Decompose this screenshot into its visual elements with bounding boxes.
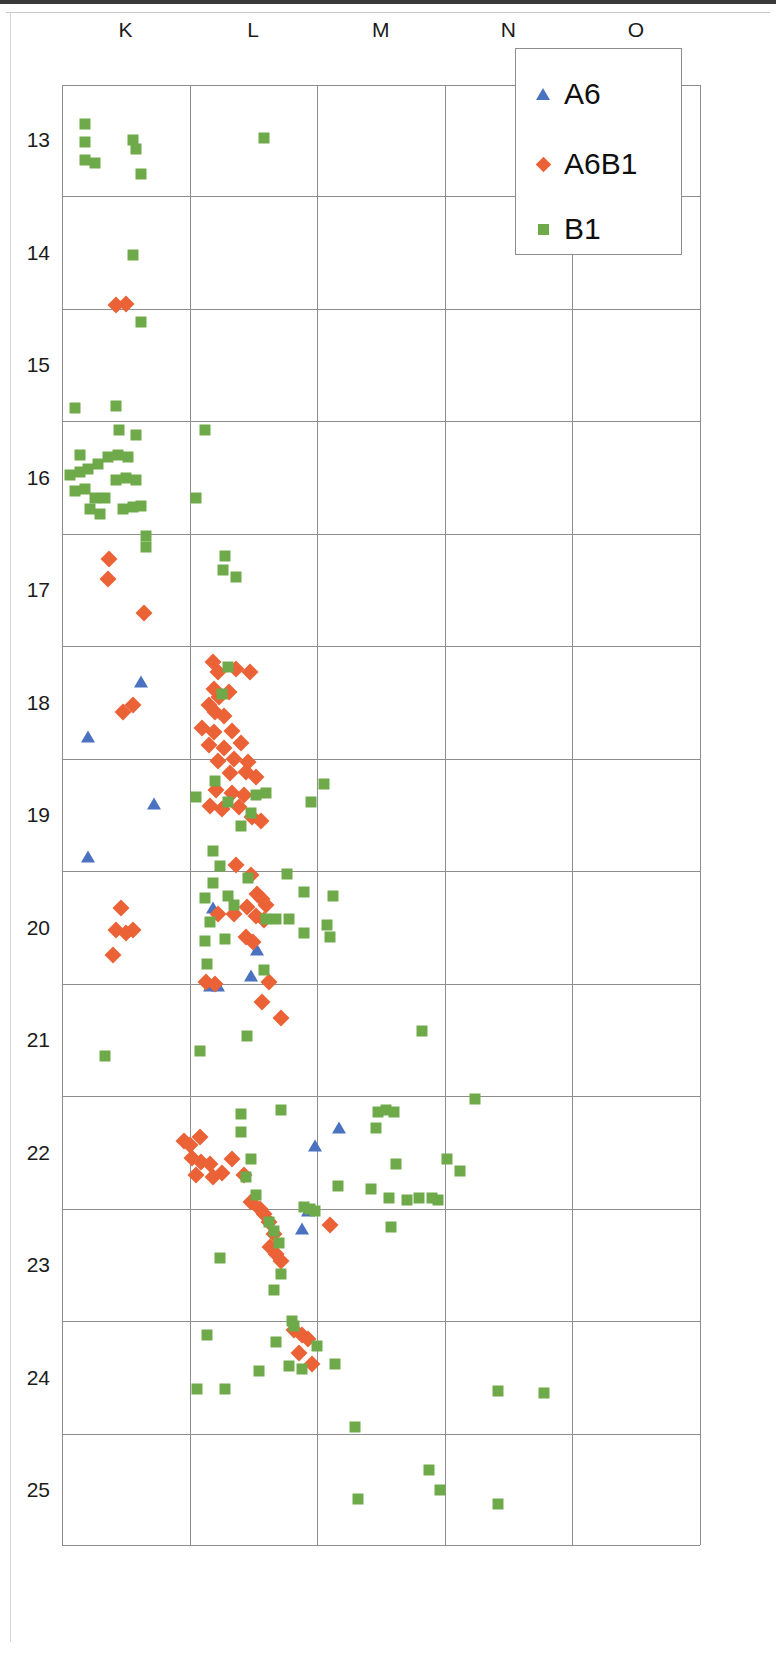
plot-border-bottom [62,1545,700,1546]
data-point-a6 [81,850,95,862]
data-point-b1 [110,400,121,411]
data-point-a6 [134,676,148,688]
data-point-b1 [199,893,210,904]
data-point-b1 [207,846,218,857]
data-point-b1 [222,796,233,807]
data-point-b1 [69,402,80,413]
y-tick-label-19: 19 [10,803,50,827]
data-point-b1 [235,1127,246,1138]
y-tick-label-14: 14 [10,241,50,265]
legend-label-a6: A6 [564,79,601,109]
gridline-horizontal-10 [62,1321,700,1322]
legend-marker-square-icon [528,224,558,235]
data-point-b1 [245,807,256,818]
data-point-b1 [194,1046,205,1057]
data-point-b1 [215,1253,226,1264]
data-point-a6b1 [99,570,116,587]
data-point-b1 [416,1026,427,1037]
data-point-b1 [493,1386,504,1397]
plot-border-right [700,85,701,1545]
data-point-b1 [243,873,254,884]
data-point-b1 [353,1494,364,1505]
data-point-b1 [268,1284,279,1295]
data-point-b1 [370,1122,381,1133]
data-point-b1 [230,571,241,582]
data-point-b1 [128,249,139,260]
data-point-b1 [539,1388,550,1399]
data-point-b1 [258,132,269,143]
data-point-b1 [216,688,227,699]
gridline-vertical-1 [190,85,191,1545]
data-point-b1 [324,931,335,942]
gridline-vertical-4 [572,85,573,1545]
data-point-a6b1 [254,993,271,1010]
gridline-vertical-2 [317,85,318,1545]
data-point-b1 [442,1154,453,1165]
data-point-b1 [388,1107,399,1118]
data-point-b1 [322,920,333,931]
data-point-b1 [136,317,147,328]
chart-page: KLMNO 13141516171819202122232425 A6A6B1B… [0,0,776,1658]
legend-item-a6[interactable]: A6 [528,79,601,109]
data-point-b1 [242,1030,253,1041]
data-point-b1 [190,792,201,803]
data-point-b1 [199,425,210,436]
data-point-b1 [235,1109,246,1120]
gridline-horizontal-11 [62,1434,700,1435]
data-point-b1 [261,787,272,798]
y-tick-label-24: 24 [10,1366,50,1390]
data-point-b1 [79,137,90,148]
gridline-horizontal-6 [62,871,700,872]
data-point-b1 [434,1485,445,1496]
legend-label-b1: B1 [564,214,601,244]
data-point-b1 [220,551,231,562]
data-point-b1 [327,891,338,902]
data-point-a6b1 [321,1216,338,1233]
legend-item-b1[interactable]: B1 [528,214,601,244]
data-point-b1 [95,508,106,519]
data-point-b1 [131,474,142,485]
data-point-b1 [222,661,233,672]
data-point-b1 [100,1050,111,1061]
data-point-a6b1 [232,735,249,752]
data-point-b1 [296,1363,307,1374]
gridline-horizontal-3 [62,534,700,535]
data-point-b1 [391,1158,402,1169]
data-point-b1 [258,965,269,976]
data-point-b1 [281,868,292,879]
data-point-a6 [308,1139,322,1151]
data-point-b1 [414,1192,425,1203]
data-point-b1 [229,900,240,911]
data-point-b1 [220,933,231,944]
data-point-b1 [235,821,246,832]
data-point-b1 [332,1181,343,1192]
data-point-b1 [273,1237,284,1248]
data-point-a6b1 [273,1009,290,1026]
data-point-b1 [268,1226,279,1237]
data-point-b1 [253,1365,264,1376]
data-point-b1 [470,1093,481,1104]
data-point-b1 [90,157,101,168]
data-point-b1 [299,928,310,939]
page-edge-top [0,0,776,4]
gridline-vertical-3 [445,85,446,1545]
data-point-b1 [190,492,201,503]
data-point-b1 [245,1154,256,1165]
data-point-b1 [141,531,152,542]
legend-item-a6b1[interactable]: A6B1 [528,149,637,179]
data-point-b1 [131,144,142,155]
data-point-a6 [295,1222,309,1234]
data-point-b1 [250,1190,261,1201]
data-point-b1 [433,1194,444,1205]
data-point-b1 [210,776,221,787]
data-point-b1 [217,564,228,575]
x-tick-label-n: N [501,18,517,42]
data-point-a6 [81,731,95,743]
data-point-b1 [240,1172,251,1183]
data-point-b1 [276,1104,287,1115]
data-point-a6b1 [105,946,122,963]
y-tick-label-15: 15 [10,353,50,377]
data-point-a6b1 [222,765,239,782]
gridline-horizontal-1 [62,309,700,310]
data-point-b1 [284,1361,295,1372]
